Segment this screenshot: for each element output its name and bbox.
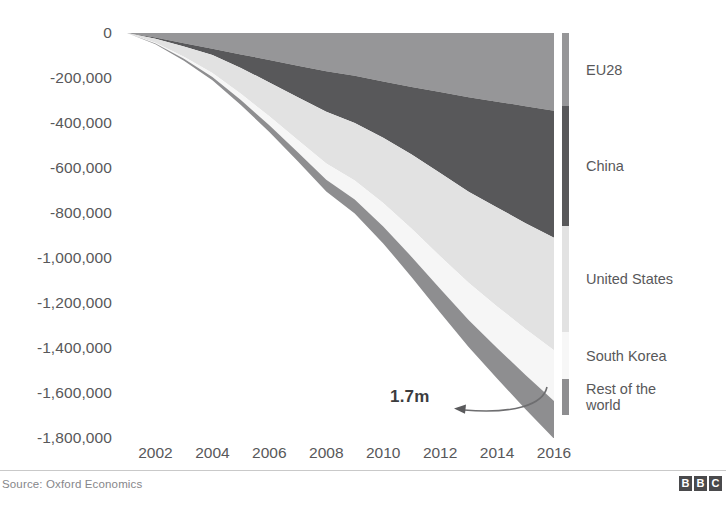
source-text: Source: Oxford Economics xyxy=(2,478,142,490)
stacked-area-svg xyxy=(127,33,554,438)
curved-arrow-left-icon xyxy=(444,385,556,419)
x-axis-tick-label: 2002 xyxy=(138,444,172,462)
y-axis-tick-label: -1,800,000 xyxy=(37,429,112,447)
y-axis-tick-label: -600,000 xyxy=(50,159,112,177)
y-axis-tick-label: 0 xyxy=(103,24,112,42)
legend-color-bar xyxy=(562,33,569,415)
x-axis-tick-label: 2016 xyxy=(537,444,571,462)
legend: EU28ChinaUnited StatesSouth KoreaRest of… xyxy=(562,33,726,415)
bbc-logo-letter: C xyxy=(709,476,722,491)
annotation-1-7m: 1.7m xyxy=(390,385,565,425)
y-axis-tick-label: -400,000 xyxy=(50,114,112,132)
x-axis-tick-label: 2014 xyxy=(480,444,514,462)
x-axis-tick-label: 2008 xyxy=(309,444,343,462)
legend-color-segment xyxy=(562,332,569,380)
bbc-logo-letter: B xyxy=(679,476,692,491)
y-axis-tick-label: -1,400,000 xyxy=(37,339,112,357)
chart-container: 0-200,000-400,000-600,000-800,000-1,000,… xyxy=(0,0,726,530)
legend-color-segment xyxy=(562,379,569,415)
x-axis-tick-label: 2006 xyxy=(252,444,286,462)
plot-area xyxy=(127,33,554,438)
legend-color-segment xyxy=(562,33,569,106)
legend-item-label[interactable]: China xyxy=(586,158,624,174)
legend-item-label[interactable]: Rest of the world xyxy=(586,381,656,413)
legend-item-label[interactable]: United States xyxy=(586,271,673,287)
x-axis-tick-label: 2012 xyxy=(423,444,457,462)
y-axis-tick-label: -1,600,000 xyxy=(37,384,112,402)
y-axis: 0-200,000-400,000-600,000-800,000-1,000,… xyxy=(0,33,120,443)
bbc-logo-letter: B xyxy=(694,476,707,491)
y-axis-tick-label: -200,000 xyxy=(50,69,112,87)
x-axis-tick-label: 2010 xyxy=(366,444,400,462)
legend-color-segment xyxy=(562,226,569,332)
bbc-logo: B B C xyxy=(679,476,722,491)
y-axis-tick-label: -1,000,000 xyxy=(37,249,112,267)
y-axis-tick-label: -1,200,000 xyxy=(37,294,112,312)
legend-item-label[interactable]: EU28 xyxy=(586,62,622,78)
x-axis-tick-label: 2004 xyxy=(195,444,229,462)
footer-divider xyxy=(0,470,726,471)
y-axis-tick-label: -800,000 xyxy=(50,204,112,222)
x-axis: 20022004200620082010201220142016 xyxy=(127,444,554,466)
legend-item-label[interactable]: South Korea xyxy=(586,348,667,364)
annotation-label: 1.7m xyxy=(390,387,430,407)
legend-color-segment xyxy=(562,106,569,226)
